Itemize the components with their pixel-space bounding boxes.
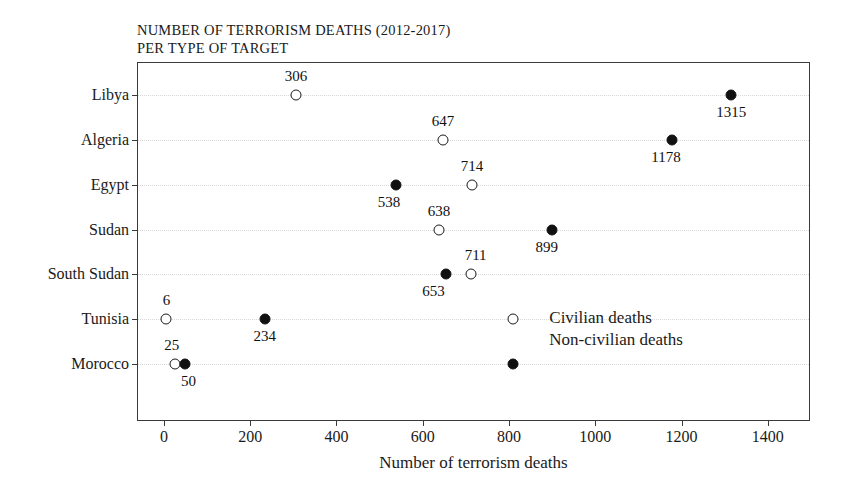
chart-title-line-2: PER TYPE OF TARGET [137,40,450,58]
x-axis-tick-mark [509,420,510,426]
gridline [138,95,809,96]
x-axis-tick-label-800: 800 [497,428,521,446]
data-point-south-sudan-non-civilian [440,269,451,280]
gridline [138,364,809,365]
data-point-algeria-non-civilian [667,134,678,145]
x-axis-tick-mark [595,420,596,426]
data-point-egypt-non-civilian [390,179,401,190]
data-point-label-egypt-civilian: 714 [461,158,484,175]
y-axis-label-sudan: Sudan [89,221,129,239]
data-point-tunisia-non-civilian [259,314,270,325]
y-axis-label-tunisia: Tunisia [82,310,129,328]
y-axis-tick-mark [132,364,138,365]
y-axis-label-libya: Libya [92,86,129,104]
x-axis-tick-label-1200: 1200 [666,428,698,446]
data-point-label-tunisia-non-civilian: 234 [254,328,277,345]
data-point-algeria-civilian [438,134,449,145]
y-axis-label-algeria: Algeria [81,131,129,149]
y-axis-label-south-sudan: South Sudan [48,265,129,283]
y-axis-tick-mark [132,140,138,141]
y-axis-tick-mark [132,230,138,231]
y-axis-tick-mark [132,274,138,275]
data-point-sudan-civilian [434,224,445,235]
data-point-tunisia-civilian [161,314,172,325]
chart-title: NUMBER OF TERRORISM DEATHS (2012-2017) P… [137,22,450,57]
y-axis-tick-mark [132,95,138,96]
gridline [138,230,809,231]
legend-marker-non-civilian [508,359,519,370]
x-axis-tick-mark [250,420,251,426]
data-point-label-sudan-non-civilian: 899 [535,239,558,256]
x-axis-tick-mark [682,420,683,426]
data-point-egypt-civilian [466,179,477,190]
data-point-morocco-civilian [169,359,180,370]
data-point-south-sudan-civilian [465,269,476,280]
x-axis-tick-mark [164,420,165,426]
x-axis-tick-label-400: 400 [324,428,348,446]
data-point-label-morocco-civilian: 25 [164,337,179,354]
data-point-label-morocco-non-civilian: 50 [181,373,196,390]
data-point-morocco-non-civilian [180,359,191,370]
x-axis-tick-label-1000: 1000 [579,428,611,446]
plot-area: Number of terrorism deaths LibyaAlgeriaE… [137,62,810,421]
data-point-label-tunisia-civilian: 6 [163,292,171,309]
x-axis-title: Number of terrorism deaths [379,453,567,473]
gridline [138,140,809,141]
data-point-label-sudan-civilian: 638 [428,203,451,220]
data-point-label-egypt-non-civilian: 538 [378,194,401,211]
terrorism-deaths-scatter-chart: NUMBER OF TERRORISM DEATHS (2012-2017) P… [0,0,848,498]
x-axis-tick-label-1400: 1400 [752,428,784,446]
legend-label-non-civilian-deaths: Non-civilian deaths [549,329,683,351]
x-axis-tick-mark [423,420,424,426]
y-axis-label-morocco: Morocco [71,355,129,373]
data-point-label-south-sudan-civilian: 711 [465,247,487,264]
data-point-label-algeria-civilian: 647 [432,113,455,130]
data-point-libya-civilian [290,89,301,100]
data-point-label-south-sudan-non-civilian: 653 [422,283,445,300]
x-axis-tick-label-600: 600 [411,428,435,446]
data-point-libya-non-civilian [726,89,737,100]
y-axis-tick-mark [132,185,138,186]
data-point-label-libya-non-civilian: 1315 [716,104,746,121]
gridline [138,319,809,320]
x-axis-tick-label-200: 200 [238,428,262,446]
y-axis-tick-mark [132,319,138,320]
legend-label-civilian-deaths: Civilian deaths [549,307,683,329]
data-point-sudan-non-civilian [546,224,557,235]
legend-marker-civilian [508,314,519,325]
y-axis-label-egypt: Egypt [91,176,129,194]
chart-legend: Civilian deathsNon-civilian deaths [549,307,683,351]
x-axis-tick-label-0: 0 [160,428,168,446]
data-point-label-libya-civilian: 306 [285,68,308,85]
x-axis-tick-mark [768,420,769,426]
x-axis-tick-mark [336,420,337,426]
data-point-label-algeria-non-civilian: 1178 [651,149,680,166]
chart-title-line-1: NUMBER OF TERRORISM DEATHS (2012-2017) [137,22,450,40]
